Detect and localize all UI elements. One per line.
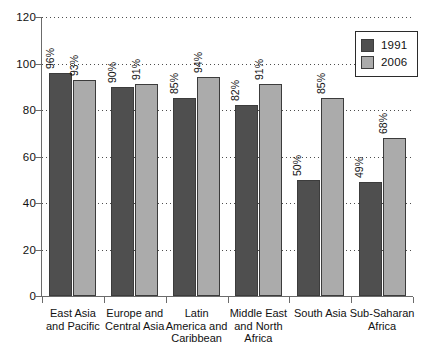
bar-value-label: 90% xyxy=(106,62,117,83)
bar-chart: 020406080100120 96%93%90%91%85%94%82%91%… xyxy=(0,0,425,350)
y-axis-tick-label: 80 xyxy=(0,102,36,118)
y-axis-tick-label: 120 xyxy=(0,9,36,25)
y-axis-tick-mark xyxy=(35,157,41,158)
legend-label-1991: 1991 xyxy=(381,39,407,52)
x-axis-tick-mark xyxy=(104,297,105,303)
y-axis-tick-mark xyxy=(35,203,41,204)
bar-1991-east-asia-and-pacific[interactable]: 96% xyxy=(49,73,72,296)
y-axis-tick-mark xyxy=(35,110,41,111)
x-axis-category-label: Europe andCentral Asia xyxy=(100,307,170,332)
x-axis-category-label-line: East Asia xyxy=(38,307,108,320)
x-axis-category-label-line: and North xyxy=(224,320,294,333)
x-axis-tick-mark xyxy=(413,297,414,303)
bar-value-label: 93% xyxy=(68,55,79,76)
bar-value-label: 85% xyxy=(316,73,327,94)
legend-swatch-1991 xyxy=(361,39,374,52)
x-axis-category-label: LatinAmerica andCaribbean xyxy=(162,307,232,345)
y-axis-tick-label: 100 xyxy=(0,56,36,72)
y-axis-tick-mark xyxy=(35,17,41,18)
x-axis-tick-mark xyxy=(166,297,167,303)
bar-group: 90%91% xyxy=(104,17,166,296)
chart-legend: 1991 2006 xyxy=(355,31,418,77)
x-axis-tick-mark xyxy=(351,297,352,303)
bar-group: 85%94% xyxy=(166,17,228,296)
x-axis-category-label: Middle Eastand NorthAfrica xyxy=(224,307,294,345)
bar-2006-europe-and-central-asia[interactable]: 91% xyxy=(135,84,158,296)
x-axis-tick-mark xyxy=(228,297,229,303)
y-axis-tick-label: 20 xyxy=(0,242,36,258)
x-axis-category-label-line: Africa xyxy=(224,332,294,345)
bar-2006-south-asia[interactable]: 85% xyxy=(321,98,344,296)
bar-value-label: 50% xyxy=(292,155,303,176)
x-axis-category-label-line: and Pacific xyxy=(38,320,108,333)
legend-swatch-2006 xyxy=(361,56,374,69)
y-axis-tick-mark xyxy=(35,64,41,65)
bar-value-label: 82% xyxy=(230,80,241,101)
x-axis-category-label: South Asia xyxy=(285,307,355,320)
bar-1991-sub-saharan-africa[interactable]: 49% xyxy=(359,182,382,296)
legend-item: 1991 xyxy=(361,37,411,54)
legend-label-2006: 2006 xyxy=(381,56,407,69)
x-axis-category-label-line: Middle East xyxy=(224,307,294,320)
bar-1991-south-asia[interactable]: 50% xyxy=(297,180,320,296)
y-axis-tick-mark xyxy=(35,250,41,251)
legend-item: 2006 xyxy=(361,54,411,71)
bar-2006-east-asia-and-pacific[interactable]: 93% xyxy=(73,80,96,296)
x-axis-tick-mark xyxy=(42,297,43,303)
x-axis-category-label-line: Latin xyxy=(162,307,232,320)
x-axis-category-label-line: America and xyxy=(162,320,232,333)
bar-value-label: 91% xyxy=(254,59,265,80)
y-axis-tick-label: 0 xyxy=(0,288,36,304)
bar-value-label: 85% xyxy=(168,73,179,94)
bar-2006-latin-america-and-caribbean[interactable]: 94% xyxy=(197,77,220,296)
x-axis-tick-mark xyxy=(289,297,290,303)
y-axis-tick-label: 60 xyxy=(0,149,36,165)
x-axis-category-label-line: Caribbean xyxy=(162,332,232,345)
bar-group: 50%85% xyxy=(289,17,351,296)
bar-2006-middle-east-and-north-africa[interactable]: 91% xyxy=(259,84,282,296)
x-axis-category-label-line: Central Asia xyxy=(100,320,170,333)
bar-group: 96%93% xyxy=(42,17,104,296)
bar-value-label: 68% xyxy=(378,113,389,134)
x-axis-category-label: East Asiaand Pacific xyxy=(38,307,108,332)
bar-1991-latin-america-and-caribbean[interactable]: 85% xyxy=(173,98,196,296)
x-axis-category-label-line: South Asia xyxy=(285,307,355,320)
bar-1991-europe-and-central-asia[interactable]: 90% xyxy=(111,87,134,296)
bar-2006-sub-saharan-africa[interactable]: 68% xyxy=(383,138,406,296)
x-axis-category-label-line: Africa xyxy=(347,320,417,333)
bar-value-label: 91% xyxy=(130,59,141,80)
bar-group: 82%91% xyxy=(228,17,290,296)
bar-value-label: 96% xyxy=(44,48,55,69)
x-axis-category-label-line: Sub-Saharan xyxy=(347,307,417,320)
x-axis-category-label-line: Europe and xyxy=(100,307,170,320)
bar-value-label: 94% xyxy=(192,52,203,73)
x-axis-category-label: Sub-SaharanAfrica xyxy=(347,307,417,332)
bar-1991-middle-east-and-north-africa[interactable]: 82% xyxy=(235,105,258,296)
y-axis-tick-label: 40 xyxy=(0,195,36,211)
bar-value-label: 49% xyxy=(354,157,365,178)
